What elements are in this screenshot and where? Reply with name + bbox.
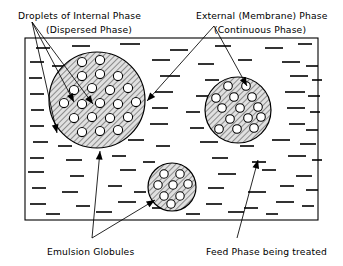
internal-phase-droplet	[69, 85, 78, 94]
internal-phase-droplet	[176, 170, 184, 178]
internal-phase-droplet	[254, 103, 263, 112]
internal-phase-droplet	[154, 181, 162, 189]
internal-phase-droplet	[244, 114, 253, 123]
internal-phase-droplet	[131, 97, 140, 106]
internal-phase-droplet	[77, 71, 86, 80]
internal-phase-droplet	[77, 99, 86, 108]
internal-phase-droplet	[105, 113, 114, 122]
internal-phase-droplet	[95, 69, 104, 78]
internal-phase-droplet	[95, 55, 104, 64]
internal-phase-droplet	[236, 104, 245, 113]
internal-phase-droplet	[215, 125, 224, 134]
leader-emulsion-globules-arrowhead	[146, 200, 155, 207]
internal-phase-droplet	[169, 181, 177, 189]
internal-phase-droplet	[160, 170, 168, 178]
internal-phase-droplet	[113, 125, 122, 134]
internal-phase-droplet	[87, 83, 96, 92]
internal-phase-droplet	[226, 115, 235, 124]
leader-feed-phase-line	[237, 160, 258, 238]
internal-phase-droplet	[212, 94, 221, 103]
label-internal-phase-line2: (Dispersed Phase)	[46, 24, 132, 35]
internal-phase-droplet	[113, 99, 122, 108]
internal-phase-droplet	[160, 192, 168, 200]
internal-phase-droplet	[250, 124, 259, 133]
internal-phase-droplet	[184, 180, 192, 188]
internal-phase-droplet	[233, 125, 242, 134]
leader-internal-phase-arrowhead	[52, 124, 59, 133]
internal-phase-droplet	[230, 93, 239, 102]
internal-phase-droplet	[69, 113, 78, 122]
internal-phase-droplet	[224, 82, 233, 91]
internal-phase-droplet	[123, 83, 132, 92]
internal-phase-droplet	[105, 85, 114, 94]
internal-phase-droplet	[113, 71, 122, 80]
internal-phase-droplet	[123, 112, 132, 121]
globule-medium	[205, 77, 271, 143]
leader-emulsion-globules-line	[92, 200, 155, 238]
internal-phase-droplet	[167, 200, 175, 208]
internal-phase-droplet	[87, 112, 96, 121]
internal-phase-droplet	[77, 127, 86, 136]
globule-small	[148, 163, 196, 211]
label-internal-phase-line1: Droplets of Internal Phase	[18, 10, 141, 21]
label-external-phase-line2: (Continuous Phase)	[214, 24, 306, 35]
figure-canvas: Droplets of Internal Phase (Dispersed Ph…	[0, 0, 343, 266]
label-emulsion-globules: Emulsion Globules	[47, 246, 134, 257]
globule-large	[49, 52, 145, 148]
internal-phase-droplet	[176, 192, 184, 200]
internal-phase-droplet	[95, 126, 104, 135]
internal-phase-droplet	[77, 57, 86, 66]
internal-phase-droplet	[95, 98, 104, 107]
label-external-phase-line1: External (Membrane) Phase	[196, 10, 328, 21]
internal-phase-droplet	[59, 98, 68, 107]
leader-emulsion-globules-arrowhead	[96, 151, 103, 160]
emulsion-liquid-membrane-diagram: Droplets of Internal Phase (Dispersed Ph…	[0, 0, 343, 266]
internal-phase-droplet	[218, 104, 227, 113]
label-feed-phase: Feed Phase being treated	[206, 246, 327, 257]
internal-phase-droplet	[257, 113, 266, 122]
leader-emulsion-globules-line	[92, 151, 100, 238]
internal-phase-droplet	[248, 93, 257, 102]
